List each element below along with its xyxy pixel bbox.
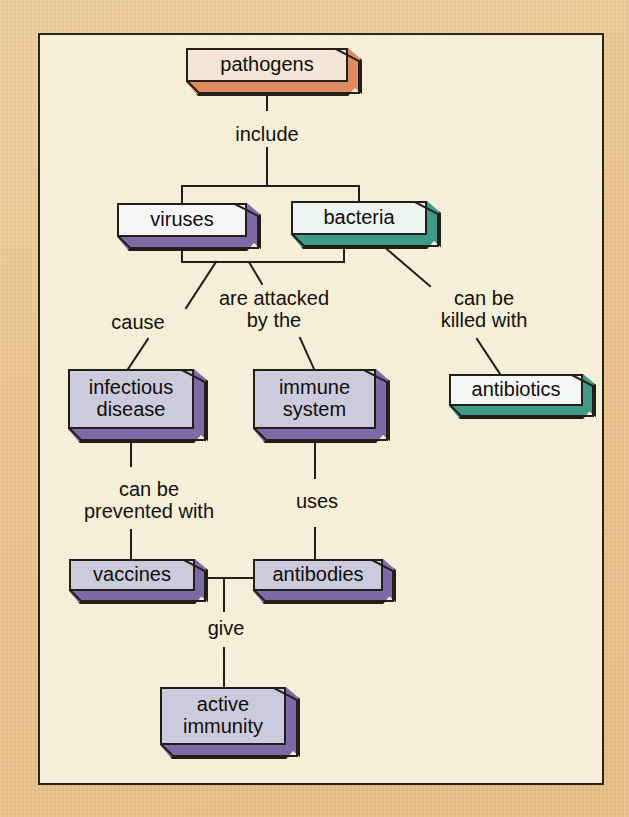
link-label-include: include xyxy=(217,123,317,145)
line-attacked-to-immune xyxy=(300,338,314,369)
node-viruses[interactable]: viruses xyxy=(117,203,259,249)
node-bacteria[interactable]: bacteria xyxy=(291,201,439,247)
link-label-can-be-killed-with: can be killed with xyxy=(414,287,554,332)
line-killed-to-antibiotics xyxy=(477,339,500,374)
node-bottom-face xyxy=(69,591,206,604)
node-infectious-disease[interactable]: infectious disease xyxy=(68,369,206,441)
line-bacteria-to-killed xyxy=(382,245,430,286)
link-label-are-attacked-by-the: are attacked by the xyxy=(199,287,349,332)
node-label: antibiotics xyxy=(449,374,583,406)
node-bottom-face xyxy=(68,429,206,443)
node-antibodies[interactable]: antibodies xyxy=(253,559,394,602)
link-label-cause: cause xyxy=(88,311,188,333)
node-bottom-face xyxy=(186,82,360,96)
node-label: pathogens xyxy=(186,48,348,82)
node-pathogens[interactable]: pathogens xyxy=(186,48,360,94)
link-label-can-be-prevented-with: can be prevented with xyxy=(54,478,244,523)
node-antibiotics[interactable]: antibiotics xyxy=(449,374,594,417)
node-label: active immunity xyxy=(160,687,286,745)
node-label: immune system xyxy=(253,369,376,429)
link-label-uses: uses xyxy=(272,490,362,512)
node-bottom-face xyxy=(449,406,594,419)
node-label: bacteria xyxy=(291,201,427,235)
link-label-give: give xyxy=(186,617,266,639)
line-cause-to-infectious xyxy=(128,339,148,369)
node-active-immunity[interactable]: active immunity xyxy=(160,687,298,757)
node-label: vaccines xyxy=(69,559,195,591)
node-label: viruses xyxy=(117,203,247,237)
node-label: antibodies xyxy=(253,559,383,591)
node-label: infectious disease xyxy=(68,369,194,429)
line-bus-to-attacked xyxy=(249,262,262,284)
node-bottom-face xyxy=(160,745,298,759)
node-bottom-face xyxy=(117,237,259,251)
node-vaccines[interactable]: vaccines xyxy=(69,559,206,602)
node-bottom-face xyxy=(253,591,394,604)
node-immune-system[interactable]: immune system xyxy=(253,369,388,441)
node-bottom-face xyxy=(291,235,439,249)
node-bottom-face xyxy=(253,429,388,443)
